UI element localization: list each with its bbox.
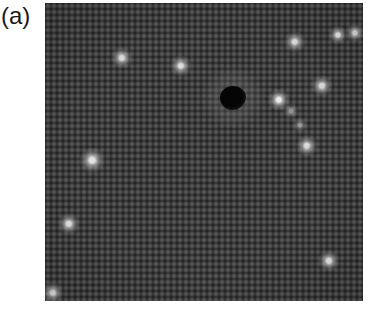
bright-adatom-spot — [58, 213, 80, 235]
bright-adatom-spot — [318, 250, 340, 272]
bright-adatom-spot — [296, 135, 318, 157]
image-vignette — [45, 3, 363, 301]
panel-label: (a) — [1, 2, 30, 30]
bright-adatom-spot — [111, 47, 133, 69]
bright-adatom-spot — [328, 25, 347, 44]
stm-image — [45, 3, 363, 301]
bright-adatom-spot — [283, 103, 299, 119]
bright-adatom-spot — [268, 89, 290, 111]
bright-adatom-spot — [311, 75, 333, 97]
bright-adatom-spot — [45, 282, 64, 301]
bright-adatom-spot — [79, 147, 105, 173]
bright-adatom-spot — [345, 23, 363, 42]
bright-adatom-spot — [292, 117, 308, 133]
bright-adatom-spot — [284, 31, 306, 53]
bright-adatom-spot — [170, 55, 192, 77]
